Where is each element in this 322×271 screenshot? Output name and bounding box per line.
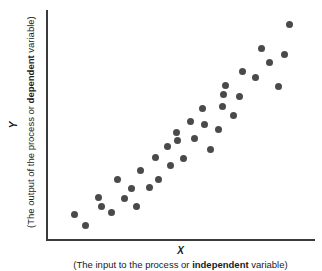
data-point — [275, 83, 282, 90]
data-point — [98, 203, 105, 210]
x-axis-sublabel-prefix: (The input to the process or — [73, 259, 192, 270]
data-point — [155, 176, 162, 183]
data-point — [219, 103, 226, 110]
data-point — [220, 91, 227, 98]
data-point — [286, 21, 293, 28]
data-point — [146, 184, 153, 191]
data-point — [222, 82, 229, 89]
y-axis-label: Y — [8, 117, 20, 133]
data-point — [121, 195, 128, 202]
x-axis-sublabel: (The input to the process or independent… — [46, 259, 315, 271]
x-axis-sublabel-suffix: variable) — [249, 259, 288, 270]
data-point — [167, 162, 174, 169]
data-point — [95, 194, 102, 201]
data-point — [152, 154, 159, 161]
data-point — [180, 155, 187, 162]
x-axis-sublabel-bold: independent — [192, 259, 248, 270]
data-point — [128, 185, 135, 192]
data-point — [71, 211, 78, 218]
data-point — [199, 105, 206, 112]
data-point — [201, 121, 208, 128]
data-point — [239, 68, 246, 75]
data-point — [230, 112, 237, 119]
y-axis-sublabel-bold: dependent — [25, 55, 36, 103]
data-point — [236, 93, 243, 100]
y-axis-sublabel: (The output of the process or dependent … — [25, 18, 37, 228]
y-axis-sublabel-prefix: (The output of the process or — [25, 103, 36, 228]
data-point — [108, 209, 115, 216]
data-point — [215, 126, 222, 133]
x-axis-line — [46, 239, 315, 241]
data-point — [114, 176, 121, 183]
data-point — [191, 135, 198, 142]
y-axis-sublabel-suffix: variable) — [25, 16, 36, 55]
data-point — [258, 45, 265, 52]
data-point — [133, 203, 140, 210]
data-point — [174, 137, 181, 144]
data-point — [207, 146, 214, 153]
data-point — [164, 143, 171, 150]
data-point — [266, 59, 273, 66]
data-point — [281, 51, 288, 58]
plot-area — [48, 10, 315, 239]
x-axis-label: X — [46, 245, 315, 257]
data-point — [82, 222, 89, 229]
data-point — [252, 74, 259, 81]
data-point — [137, 167, 144, 174]
data-point — [173, 129, 180, 136]
data-point — [187, 118, 194, 125]
